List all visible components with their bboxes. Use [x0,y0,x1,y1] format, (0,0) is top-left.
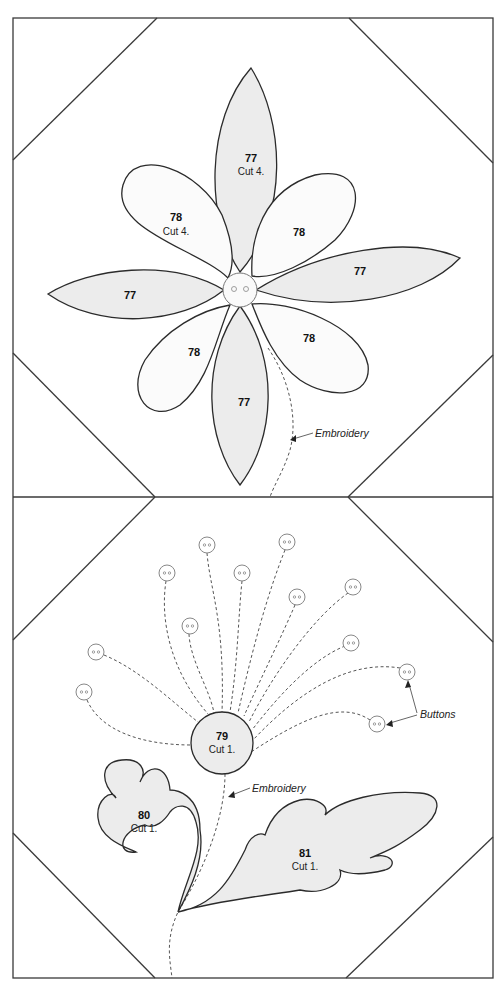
arrowhead-icon [386,720,393,727]
label-78-upper-right: 78 [293,226,305,238]
label-78-lower-left: 78 [188,346,200,358]
corner-bottom-left-1 [13,353,155,497]
button [234,565,250,581]
corner-top-right-2 [348,497,493,642]
corner-top-right-1 [349,18,493,163]
label-79-cut: Cut 1. [209,744,236,755]
callout-embroidery-bottom: Embroidery [252,782,306,794]
label-80: 80 [138,809,150,821]
button [289,589,305,605]
top-flower: 77 Cut 4. 78 Cut 4. 78 77 77 78 78 77 Em… [48,68,460,497]
label-77-top-cut: Cut 4. [238,166,265,177]
label-81: 81 [299,847,311,859]
flower-center-button [223,273,257,307]
embroidery-leader-bottom [232,788,250,795]
button [399,664,415,680]
corner-bottom-left-2 [13,833,155,978]
label-81-cut: Cut 1. [292,861,319,872]
callout-embroidery-top: Embroidery [315,427,369,439]
button [345,579,361,595]
button [76,684,92,700]
button [182,618,198,634]
button [279,534,295,550]
buttons [76,534,415,732]
corner-bottom-right-1 [348,355,493,497]
label-78-upper-left-cut: Cut 4. [163,226,190,237]
pattern-diagram: 77 Cut 4. 78 Cut 4. 78 77 77 78 78 77 Em… [0,0,500,988]
button [343,635,359,651]
arrowhead-icon [405,680,411,688]
button [159,565,175,581]
label-79: 79 [216,730,228,742]
flower-center-79: 79 Cut 1. [191,712,253,774]
buttons-leader-2 [390,715,417,723]
petal-78-lower-right [252,304,368,393]
arrowhead-icon [228,791,235,798]
label-77-right: 77 [354,265,366,277]
label-77-bottom: 77 [238,396,250,408]
callout-buttons: Buttons [420,708,456,720]
label-77-left: 77 [124,289,136,301]
label-80-cut: Cut 1. [131,823,158,834]
label-77-top: 77 [245,152,257,164]
leaf-80 [98,760,201,912]
corner-top-left-2 [13,497,155,640]
buttons-leader-1 [409,684,417,713]
button [88,644,104,660]
button [199,537,215,553]
label-78-upper-left: 78 [170,211,182,223]
arrowhead-icon [290,435,296,442]
corner-top-left-1 [13,18,157,160]
button [369,716,385,732]
bottom-flower: 79 Cut 1. 80 Cut 1. 81 Cut 1. Embroidery [76,534,456,978]
label-78-lower-right: 78 [303,332,315,344]
